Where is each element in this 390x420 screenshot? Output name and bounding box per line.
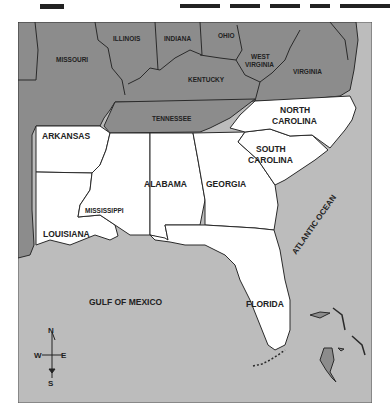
label-indiana: INDIANA xyxy=(164,35,191,42)
label-west-virginia-2: VIRGINIA xyxy=(245,61,274,68)
label-gulf-of-mexico: GULF OF MEXICO xyxy=(89,297,163,307)
title-fragment xyxy=(0,0,390,10)
label-mississippi: MISSISSIPPI xyxy=(85,207,124,214)
label-louisiana: LOUISIANA xyxy=(43,229,90,239)
label-tennessee: TENNESSEE xyxy=(152,115,192,122)
compass-e: E xyxy=(61,351,67,360)
compass-n: N xyxy=(48,326,54,335)
label-georgia: GEORGIA xyxy=(206,179,246,189)
label-north-carolina-2: CAROLINA xyxy=(272,116,317,126)
label-kentucky: KENTUCKY xyxy=(188,76,225,83)
label-virginia: VIRGINIA xyxy=(293,68,322,75)
southern-states-map: MISSOURI ILLINOIS INDIANA OHIO WEST VIRG… xyxy=(18,22,372,403)
label-alabama: ALABAMA xyxy=(144,179,187,189)
label-arkansas: ARKANSAS xyxy=(42,131,91,141)
label-missouri: MISSOURI xyxy=(56,56,88,63)
label-north-carolina-1: NORTH xyxy=(280,105,310,115)
label-south-carolina-2: CAROLINA xyxy=(248,155,293,165)
label-south-carolina-1: SOUTH xyxy=(256,144,286,154)
label-ohio: OHIO xyxy=(218,32,235,39)
label-florida: FLORIDA xyxy=(246,299,284,309)
compass-s: S xyxy=(48,379,54,388)
label-illinois: ILLINOIS xyxy=(113,35,141,42)
compass-w: W xyxy=(34,351,42,360)
label-west-virginia-1: WEST xyxy=(251,53,270,60)
